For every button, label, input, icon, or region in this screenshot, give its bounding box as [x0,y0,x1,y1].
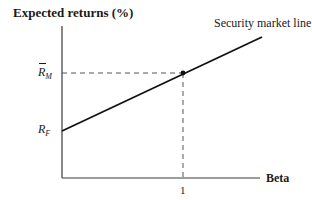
bar-accent [39,63,46,64]
x-tick-one: 1 [180,185,186,196]
chart-canvas [0,0,312,200]
y-axis-label: Expected returns (%) [13,6,133,19]
y-tick-risk-free: RF [38,123,50,138]
rm-sub: M [45,72,52,81]
rf-sub: F [45,129,50,138]
line-label: Security market line [214,17,311,29]
x-axis-label: Beta [266,172,289,184]
y-tick-market-return: RM [38,66,52,81]
security-market-line [62,37,262,131]
market-point [181,71,186,76]
